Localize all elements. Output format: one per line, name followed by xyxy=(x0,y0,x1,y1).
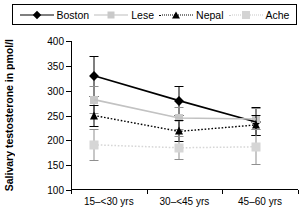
square-marker-icon xyxy=(108,11,115,18)
plot-area: 100150200250300350400 15–<30 yrs30–<45 y… xyxy=(71,41,298,190)
y-tick-label: 200 xyxy=(47,135,64,146)
series-line-ache xyxy=(94,145,256,148)
y-tick-label: 100 xyxy=(47,185,64,196)
x-tick-label: 45–60 yrs xyxy=(238,196,282,207)
chart-legend: Boston Lese Nepal Ache xyxy=(12,4,297,25)
legend-label-nepal: Nepal xyxy=(196,10,223,20)
chart-root: Boston Lese Nepal Ache Salivary testo xyxy=(0,0,306,222)
diamond-marker-icon xyxy=(32,10,40,18)
legend-label-lese: Lese xyxy=(131,10,154,20)
y-axis-title: Salivary testosterone in pmol/l xyxy=(2,41,16,190)
square-light-marker-icon xyxy=(242,11,250,19)
legend-swatch-ache xyxy=(229,10,263,20)
series-line-boston xyxy=(94,76,256,122)
y-tick-label: 350 xyxy=(47,60,64,71)
legend-label-boston: Boston xyxy=(57,10,90,20)
y-tick-label: 250 xyxy=(47,110,64,121)
legend-label-ache: Ache xyxy=(266,10,290,20)
y-tick-label: 300 xyxy=(47,85,64,96)
x-tick xyxy=(298,190,299,194)
x-tick xyxy=(147,190,148,194)
y-tick-label: 150 xyxy=(47,160,64,171)
x-tick xyxy=(222,190,223,194)
series-lines xyxy=(71,41,298,190)
y-axis-title-text: Salivary testosterone in pmol/l xyxy=(3,39,15,191)
y-tick-label: 400 xyxy=(47,36,64,47)
legend-swatch-boston xyxy=(20,10,54,20)
legend-item-lese: Lese xyxy=(94,10,154,20)
legend-item-ache: Ache xyxy=(229,10,290,20)
x-tick xyxy=(71,190,72,194)
triangle-marker-icon xyxy=(172,11,180,18)
x-tick-label: 15–<30 yrs xyxy=(84,196,134,207)
legend-swatch-nepal xyxy=(159,10,193,20)
legend-swatch-lese xyxy=(94,10,128,20)
legend-item-boston: Boston xyxy=(20,10,90,20)
x-tick-label: 30–<45 yrs xyxy=(160,196,210,207)
legend-item-nepal: Nepal xyxy=(159,10,223,20)
